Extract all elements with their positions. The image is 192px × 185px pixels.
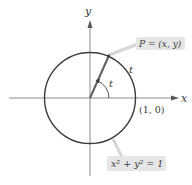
- x-axis-arrow-icon: [171, 96, 179, 101]
- y-axis-label: y: [84, 5, 92, 18]
- point-p-dot: [107, 55, 110, 58]
- unit-circle-diagram: y x t t (1, 0) P = (x, y) x² + y² = 1: [0, 0, 192, 185]
- radius-line: [90, 57, 109, 99]
- intercept-label: (1, 0): [139, 104, 165, 115]
- y-axis-arrow-icon: [88, 20, 93, 28]
- x-axis-label: x: [181, 92, 188, 105]
- point-label: P = (x, y): [138, 39, 182, 49]
- equation-leader-line: [113, 139, 122, 157]
- angle-label: t: [109, 78, 114, 89]
- angle-arc: [97, 81, 109, 99]
- arc-length-label: t: [129, 64, 134, 75]
- equation-label: x² + y² = 1: [111, 158, 163, 169]
- point-leader-line: [109, 44, 138, 55]
